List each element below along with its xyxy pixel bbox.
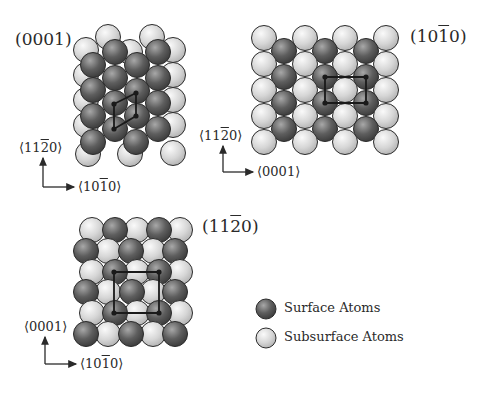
surface-atom (81, 130, 106, 155)
surface-atom (103, 66, 128, 91)
axis-text: ⟨11 (19, 140, 41, 155)
surface-atom (74, 322, 99, 347)
surface-atom (81, 104, 106, 129)
title-text: 1) (54, 29, 71, 49)
axis-label-right-0001: ⟨1010⟩ (78, 179, 121, 194)
unit-cell-vertex (133, 113, 138, 118)
axis-text: ⟨000 (257, 164, 287, 179)
panel-title-11-20: (1120) (202, 216, 259, 236)
panel-11-20 (45, 218, 193, 365)
title-text: (11 (202, 216, 230, 236)
surface-atom (81, 78, 106, 103)
axis-text: 0⟩ (229, 128, 242, 143)
unit-cell-vertex (322, 100, 327, 105)
axis-text: ⟨11 (199, 128, 221, 143)
subsurface-atom (161, 141, 186, 166)
surface-atom (81, 53, 106, 78)
unit-cell-vertex (133, 90, 138, 95)
axis-text: 1⟩ (287, 164, 300, 179)
subsurface-atom (252, 130, 277, 155)
unit-cell-vertex (363, 74, 368, 79)
title-bar-digit: 2 (230, 216, 241, 236)
hcp-surface-diagram: (0001) (1010) (1120) ⟨1120⟩ ⟨1010⟩ ⟨1120… (0, 0, 490, 394)
axis-text: 0⟩ (110, 356, 123, 371)
unit-cell-vertex (111, 101, 116, 106)
legend-label-subsurface: Subsurface Atoms (284, 329, 404, 344)
title-text: 0) (241, 216, 258, 236)
title-text: 0) (449, 26, 466, 46)
axis-text: ⟨10 (80, 356, 102, 371)
surface-atom (124, 130, 149, 155)
axis-bar-digit: 2 (41, 140, 49, 155)
title-text: (10 (410, 26, 438, 46)
unit-cell-vertex (111, 126, 116, 131)
surface-atom (163, 322, 188, 347)
surface-atom (103, 40, 128, 65)
surface-atom (146, 117, 171, 142)
axis-bar-digit: 1 (100, 179, 108, 194)
unit-cell-vertex (322, 74, 327, 79)
subsurface-atom (293, 130, 318, 155)
surface-atom (119, 322, 144, 347)
axis-label-up-10-10: ⟨1120⟩ (199, 128, 242, 143)
subsurface-atom (141, 322, 166, 347)
axis-bar-digit: 2 (221, 128, 229, 143)
axis-label-right-10-10: ⟨0001⟩ (257, 164, 300, 179)
unit-cell-vertex (111, 310, 116, 315)
legend-surface-atom-icon (256, 299, 276, 319)
legend (256, 299, 276, 348)
axis-text: 0⟩ (49, 140, 62, 155)
title-bar-digit: 1 (438, 26, 449, 46)
subsurface-atom (96, 322, 121, 347)
axis-text: ⟨000 (24, 319, 54, 334)
legend-subsurface-atom-icon (256, 328, 276, 348)
axis-text: ⟨10 (78, 179, 100, 194)
legend-label-surface: Surface Atoms (284, 300, 380, 315)
unit-cell-vertex (111, 269, 116, 274)
axis-text: 0⟩ (108, 179, 121, 194)
unit-cell-vertex (156, 310, 161, 315)
subsurface-atom (374, 130, 399, 155)
axis-bar-digit: 1 (102, 356, 110, 371)
axis-text: 1⟩ (54, 319, 67, 334)
atom-diagram-canvas (0, 0, 490, 394)
subsurface-atom (333, 130, 358, 155)
unit-cell-vertex (156, 269, 161, 274)
panel-title-0001: (0001) (15, 29, 72, 49)
axis-label-up-11-20: ⟨0001⟩ (24, 319, 67, 334)
axis-label-right-11-20: ⟨1010⟩ (80, 356, 123, 371)
axis-label-up-0001: ⟨1120⟩ (19, 140, 62, 155)
panel-10-10 (223, 26, 399, 173)
panel-title-10-10: (1010) (410, 26, 467, 46)
unit-cell-vertex (363, 100, 368, 105)
title-text: (000 (15, 29, 54, 49)
